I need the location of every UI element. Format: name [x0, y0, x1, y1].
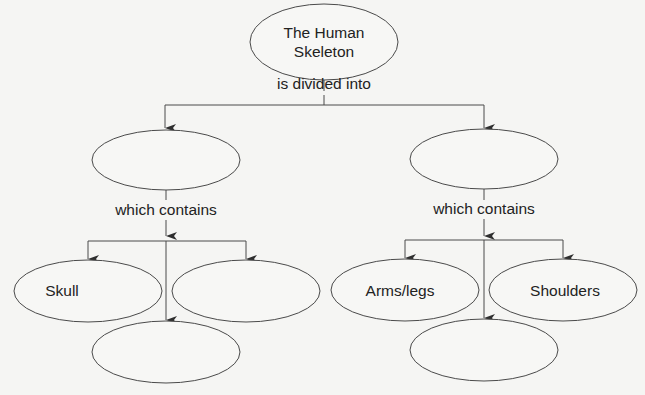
concept-map-canvas: The Human Skeleton is divided into which…: [0, 0, 645, 395]
branch-left-node: [92, 130, 240, 190]
child-right-middle-node: [410, 319, 558, 381]
branch-left: which contains Skull: [14, 130, 320, 383]
root-node: The Human Skeleton: [250, 4, 398, 80]
branch-right-node: [410, 129, 558, 189]
root-label-line1: The Human: [284, 24, 365, 41]
child-shoulders-label: Shoulders: [530, 282, 600, 299]
branch-right: which contains Arms/legs Shoulders: [331, 129, 637, 381]
branch-left-link-label: which contains: [114, 201, 217, 218]
root-label-line2: Skeleton: [294, 43, 354, 60]
root-link-label: is divided into: [277, 75, 371, 92]
child-arms-legs-label: Arms/legs: [366, 282, 435, 299]
root-connector: is divided into: [165, 75, 484, 128]
concept-map: The Human Skeleton is divided into which…: [0, 0, 645, 395]
child-skull-node: [14, 260, 162, 322]
child-left-right-node: [172, 260, 320, 322]
child-skull-label: Skull: [45, 282, 79, 299]
branch-right-link-label: which contains: [432, 200, 535, 217]
child-left-middle-node: [92, 321, 240, 383]
